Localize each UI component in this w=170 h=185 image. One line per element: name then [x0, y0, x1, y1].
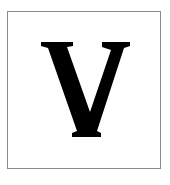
letter-v-glyph: [0, 0, 170, 185]
